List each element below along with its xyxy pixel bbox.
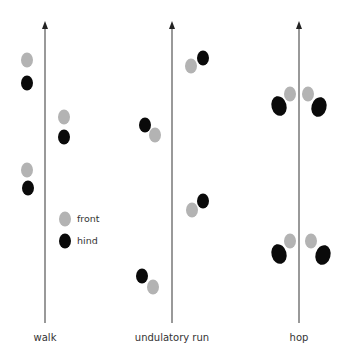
hind-footprint (313, 243, 333, 266)
arrow-head-icon (42, 21, 48, 29)
front-footprint (284, 234, 296, 249)
arrow-head-icon (296, 21, 302, 29)
panel-label-walk: walk (34, 332, 57, 343)
legend-hind-label: hind (77, 235, 98, 246)
gait-diagram (0, 0, 347, 363)
legend-hind-swatch (59, 234, 71, 249)
front-footprint (284, 87, 296, 102)
front-footprint (149, 128, 161, 143)
front-footprint (302, 87, 314, 102)
panel-label-hop: hop (290, 332, 309, 343)
hind-footprint (197, 51, 209, 66)
hind-footprint (58, 130, 70, 145)
arrow-head-icon (169, 21, 175, 29)
hind-footprint (139, 118, 151, 133)
front-footprint (58, 110, 70, 125)
front-footprint (185, 59, 197, 74)
panel-label-undulatory-run: undulatory run (135, 332, 209, 343)
legend-front-swatch (59, 212, 71, 227)
hind-footprint (136, 269, 148, 284)
hind-footprint (22, 181, 34, 196)
front-footprint (305, 234, 317, 249)
legend-front-label: front (77, 213, 100, 224)
hind-footprint (21, 76, 33, 91)
front-footprint (186, 203, 198, 218)
hind-footprint (197, 194, 209, 209)
front-footprint (147, 280, 159, 295)
front-footprint (21, 53, 33, 68)
front-footprint (21, 163, 33, 178)
